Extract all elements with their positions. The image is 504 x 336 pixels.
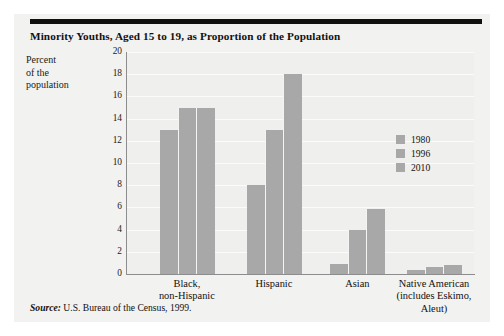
bar-2010-1[interactable]	[283, 74, 302, 274]
bar-1980-2[interactable]	[330, 264, 348, 274]
bar-2010-2[interactable]	[366, 209, 385, 274]
bar-1996-0[interactable]	[178, 108, 197, 275]
y-tick-label: 20	[100, 47, 122, 56]
figure-panel: Minority Youths, Aged 15 to 19, as Propo…	[14, 14, 490, 322]
y-axis-title: Percent of the population	[26, 54, 104, 92]
category-label-line: (includes Eskimo,	[369, 290, 499, 302]
bar-2010-0[interactable]	[196, 108, 215, 275]
y-axis-title-line-1: Percent	[26, 54, 104, 67]
y-tick-label: 4	[100, 225, 122, 234]
legend: 1980 1996 2010	[396, 132, 430, 174]
y-tick-label: 16	[100, 91, 122, 100]
y-tick-label: 12	[100, 136, 122, 145]
y-tick-label: 14	[100, 114, 122, 123]
legend-item-1980[interactable]: 1980	[396, 132, 430, 146]
bar-1996-1[interactable]	[265, 130, 284, 274]
legend-swatch-icon-2010	[396, 163, 405, 172]
chart-title: Minority Youths, Aged 15 to 19, as Propo…	[30, 30, 470, 42]
y-tick-label: 10	[100, 158, 122, 167]
category-label-line: Aleut)	[369, 303, 499, 315]
x-axis-line	[126, 274, 475, 275]
y-tick-label: 0	[100, 269, 122, 278]
bar-group	[160, 52, 214, 274]
source-label: Source:	[30, 302, 61, 313]
legend-label-1980: 1980	[411, 134, 430, 145]
bar-1996-3[interactable]	[425, 267, 444, 274]
legend-label-1996: 1996	[411, 148, 430, 159]
legend-swatch-icon-1996	[396, 149, 405, 158]
y-tick-label: 8	[100, 180, 122, 189]
bar-group	[247, 52, 301, 274]
source-text: U.S. Bureau of the Census, 1999.	[63, 302, 191, 313]
legend-item-2010[interactable]: 2010	[396, 160, 430, 174]
y-tick-label: 18	[100, 69, 122, 78]
y-tick-label: 6	[100, 202, 122, 211]
y-axis-title-line-3: population	[26, 79, 104, 92]
legend-item-1996[interactable]: 1996	[396, 146, 430, 160]
legend-swatch-icon-1980	[396, 135, 405, 144]
y-axis-line	[126, 52, 127, 275]
bar-1996-2[interactable]	[348, 230, 367, 274]
bar-group	[330, 52, 384, 274]
y-axis-title-line-2: of the	[26, 67, 104, 80]
bar-1980-1[interactable]	[247, 185, 265, 274]
category-label-line: non-Hispanic	[122, 290, 252, 302]
category-label-line: Native American	[369, 278, 499, 290]
legend-label-2010: 2010	[411, 162, 430, 173]
bar-1980-0[interactable]	[160, 130, 178, 274]
source-note: Source: U.S. Bureau of the Census, 1999.	[30, 302, 192, 313]
top-rule-divider	[30, 19, 482, 24]
y-tick-label: 2	[100, 247, 122, 256]
category-label: Native American(includes Eskimo,Aleut)	[369, 278, 499, 315]
y-axis-tick-labels: 02468101214161820	[98, 52, 122, 274]
bar-2010-3[interactable]	[443, 265, 462, 274]
